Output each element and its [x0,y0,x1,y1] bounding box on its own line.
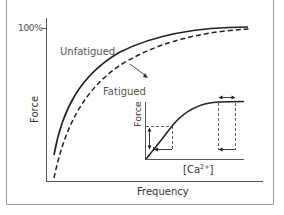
inset-x-label-base: [Ca [183,164,200,175]
main-x-axis-label: Frequency [137,187,189,197]
inset-top-double-arrow-icon [219,96,236,100]
inset-x-label-end: ] [210,164,214,175]
inset-x-label-sup: 2+ [200,163,210,171]
inset-force-double-arrow-icon [148,128,152,150]
inset-left-arrow-2-icon [219,148,236,152]
inset-y-axis-label: Force [133,101,143,127]
unfatigued-label: Unfatigued [60,47,115,57]
main-y-axis-label: Force [30,96,40,123]
force-frequency-diagram: 100% Force Frequency Unfatigued Fatigued… [0,0,284,215]
fatigued-label: Fatigued [103,87,146,97]
inset-curve [146,102,244,160]
inset-x-axis-label: [Ca2+] [183,164,214,175]
y-tick-label: 100% [18,24,43,33]
inset-left-arrow-1-icon [154,148,172,152]
shift-arrow-line [130,64,146,76]
